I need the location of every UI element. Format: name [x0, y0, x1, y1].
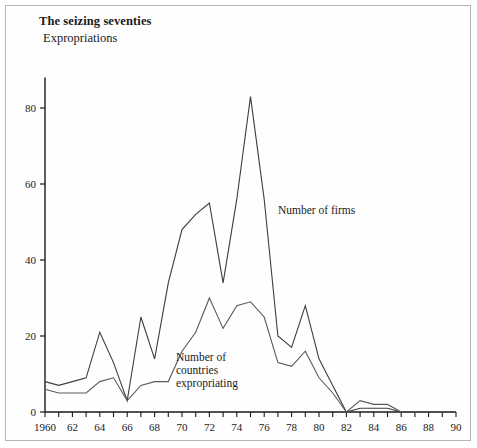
svg-text:90: 90 [451, 421, 463, 433]
svg-text:84: 84 [368, 421, 380, 433]
series-label-countries-line1: Number of [176, 351, 238, 364]
svg-text:60: 60 [25, 178, 37, 190]
svg-text:64: 64 [94, 421, 106, 433]
series-label-countries-line2: countries [176, 364, 238, 377]
svg-text:66: 66 [122, 421, 134, 433]
series-label-firms: Number of firms [278, 204, 355, 217]
data-series [45, 97, 456, 412]
svg-text:78: 78 [286, 421, 298, 433]
svg-text:20: 20 [25, 330, 37, 342]
svg-text:68: 68 [149, 421, 161, 433]
chart-plot-area: 0204060801960626466687072747678808284868… [6, 6, 472, 442]
series-label-countries: Number of countries expropriating [176, 351, 238, 390]
svg-text:72: 72 [204, 421, 215, 433]
svg-text:80: 80 [314, 421, 326, 433]
svg-text:1960: 1960 [34, 421, 57, 433]
svg-text:76: 76 [259, 421, 271, 433]
chart-frame: The seizing seventies Expropriations 020… [5, 5, 471, 441]
svg-text:62: 62 [67, 421, 78, 433]
svg-text:80: 80 [25, 102, 37, 114]
series-label-firms-text: Number of firms [278, 204, 355, 216]
svg-text:74: 74 [231, 421, 243, 433]
axes: 0204060801960626466687072747678808284868… [25, 78, 462, 433]
series-label-countries-line3: expropriating [176, 377, 238, 390]
svg-text:82: 82 [341, 421, 352, 433]
svg-text:40: 40 [25, 254, 37, 266]
svg-text:70: 70 [177, 421, 189, 433]
svg-text:0: 0 [31, 406, 37, 418]
svg-text:86: 86 [396, 421, 408, 433]
svg-text:88: 88 [423, 421, 435, 433]
